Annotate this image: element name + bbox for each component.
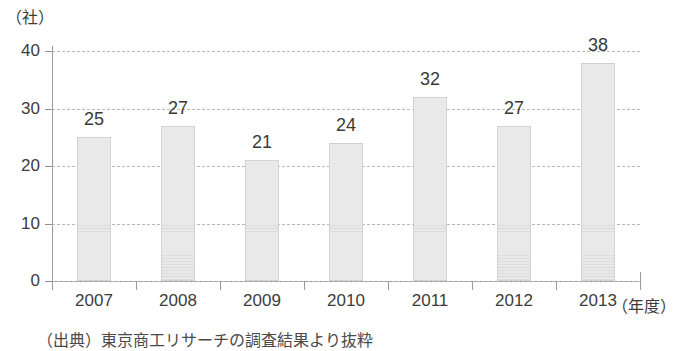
x-axis-tick <box>304 281 305 290</box>
x-axis-tick <box>388 281 389 290</box>
bar-value-label: 38 <box>556 36 640 54</box>
x-axis-tick <box>640 281 641 290</box>
x-axis-tick <box>136 281 137 290</box>
bar-value-label: 32 <box>388 70 472 88</box>
bar-value-label: 25 <box>52 110 136 128</box>
gridline <box>52 51 640 52</box>
y-axis-tick-label: 20 <box>0 157 40 174</box>
y-axis-tick-label: 0 <box>0 272 40 289</box>
bar-value-label: 27 <box>136 99 220 117</box>
bar <box>77 137 111 281</box>
x-axis-category-label: 2012 <box>472 292 556 309</box>
bar-value-label: 24 <box>304 116 388 134</box>
bar-value-label: 27 <box>472 99 556 117</box>
x-axis-category-label: 2011 <box>388 292 472 309</box>
source-caption: （出典）東京商工リサーチの調査結果より抜粋 <box>37 327 373 351</box>
bar-value-label: 21 <box>220 133 304 151</box>
y-axis-unit-label: （社） <box>6 4 54 28</box>
x-axis-tick <box>472 281 473 290</box>
plot-area <box>52 51 640 281</box>
x-axis-category-label: 2008 <box>136 292 220 309</box>
x-axis-tick <box>220 281 221 290</box>
x-axis-tick <box>556 281 557 290</box>
bar <box>497 126 531 281</box>
bar <box>245 160 279 281</box>
bar <box>161 126 195 281</box>
x-axis-category-label: 2009 <box>220 292 304 309</box>
bar <box>329 143 363 281</box>
y-axis-tick-label: 30 <box>0 100 40 117</box>
bar <box>413 97 447 281</box>
x-axis-category-label: 2010 <box>304 292 388 309</box>
y-axis-tick-label: 40 <box>0 42 40 59</box>
x-axis-tick <box>52 281 53 290</box>
x-axis-unit-label: （年度） <box>612 293 676 317</box>
x-axis-category-label: 2007 <box>52 292 136 309</box>
gridline <box>52 281 640 282</box>
bar <box>581 63 615 282</box>
y-axis-tick-label: 10 <box>0 215 40 232</box>
